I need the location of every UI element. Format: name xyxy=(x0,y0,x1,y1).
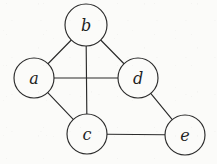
graph-edge-d-e xyxy=(151,93,173,119)
graph-node-label-e: e xyxy=(180,126,189,145)
graph-node-label-b: b xyxy=(81,16,91,35)
graph-node-label-c: c xyxy=(83,125,92,144)
graph-edge-c-e xyxy=(107,134,165,135)
graph-node-d: d xyxy=(118,58,158,98)
graph-edge-a-b xyxy=(48,40,71,64)
graph-edge-b-d xyxy=(101,40,124,64)
graph-node-b: b xyxy=(65,4,107,46)
node-layer: abcde xyxy=(14,4,205,155)
graph-node-label-a: a xyxy=(29,69,39,88)
graph-node-c: c xyxy=(67,114,107,154)
graph-figure: abcde xyxy=(0,0,217,164)
graph-edge-b-c xyxy=(86,46,87,114)
graph-node-e: e xyxy=(165,115,205,155)
graph-node-label-d: d xyxy=(133,69,143,88)
graph-node-a: a xyxy=(14,58,54,98)
graph-canvas: abcde xyxy=(0,0,217,164)
graph-edge-a-c xyxy=(48,93,74,120)
